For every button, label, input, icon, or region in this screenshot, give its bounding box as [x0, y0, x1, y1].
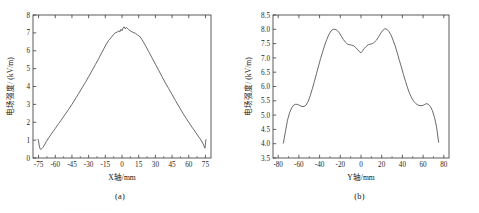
y-tick-label: 5.5	[261, 97, 270, 105]
x-tick-label: 15	[135, 161, 143, 169]
plot-frame	[273, 15, 449, 158]
x-axis-title: Y轴/mm	[347, 172, 375, 182]
x-tick-label: -40	[315, 161, 325, 169]
y-tick-label: 4.0	[261, 140, 270, 148]
y-tick-label: 8.5	[261, 12, 270, 20]
y-tick-label: 7	[26, 29, 30, 37]
x-tick-label: -20	[335, 161, 345, 169]
panel-a-caption: (a)	[0, 192, 240, 201]
x-tick-label: -60	[294, 161, 304, 169]
x-tick-label: -60	[50, 161, 60, 169]
y-tick-label: 8.0	[261, 26, 270, 34]
y-tick-label: 0	[26, 155, 30, 163]
x-tick-label: -80	[273, 161, 283, 169]
y-tick-label: 5	[26, 65, 30, 73]
y-tick-label: 3.5	[261, 155, 270, 163]
chart-panel-a: -75-60-45-30-1501530456075012345678X轴/mm…	[0, 0, 240, 213]
chart-b-plot: -80-60-40-200204060803.54.04.55.05.56.06…	[240, 0, 479, 190]
x-tick-label: 80	[440, 161, 448, 169]
x-tick-label: 0	[359, 161, 363, 169]
x-tick-label: -30	[84, 161, 94, 169]
x-tick-label: -75	[34, 161, 44, 169]
y-tick-label: 1	[26, 137, 30, 145]
x-tick-label: 45	[168, 161, 176, 169]
chart-panel-b: -80-60-40-200204060803.54.04.55.05.56.06…	[240, 0, 479, 213]
x-tick-label: 30	[152, 161, 160, 169]
x-tick-label: 75	[202, 161, 210, 169]
y-tick-label: 5.0	[261, 112, 270, 120]
y-tick-label: 3	[26, 101, 30, 109]
y-tick-label: 4.5	[261, 126, 270, 134]
y-tick-label: 4	[26, 83, 30, 91]
data-series-line	[38, 27, 206, 150]
y-tick-label: 2	[26, 119, 30, 127]
x-tick-label: 60	[185, 161, 193, 169]
panel-b-caption: (b)	[240, 192, 479, 201]
x-tick-label: 0	[120, 161, 124, 169]
y-tick-label: 6.5	[261, 69, 270, 77]
x-tick-label: 20	[378, 161, 386, 169]
x-tick-label: -15	[101, 161, 111, 169]
y-tick-label: 6	[26, 47, 30, 55]
y-tick-label: 7.5	[261, 40, 270, 48]
bottom-partial-text-line: · · · · · · · · · · · · · · · · · ·	[62, 207, 418, 212]
y-tick-label: 8	[26, 12, 30, 20]
figure-root: -75-60-45-30-1501530456075012345678X轴/mm…	[0, 0, 479, 213]
x-tick-label: -45	[67, 161, 77, 169]
y-tick-label: 6.0	[261, 83, 270, 91]
y-axis-title: 电场强度/ (kV/m)	[243, 57, 253, 116]
x-axis-title: X轴/mm	[108, 172, 136, 182]
x-tick-label: 60	[420, 161, 428, 169]
y-tick-label: 7.0	[261, 55, 270, 63]
y-axis-title: 电场强度/ (kV/m)	[5, 57, 15, 116]
x-tick-label: 40	[399, 161, 407, 169]
plot-frame	[33, 15, 211, 158]
chart-a-plot: -75-60-45-30-1501530456075012345678X轴/mm…	[0, 0, 240, 190]
data-series-line	[283, 29, 438, 143]
